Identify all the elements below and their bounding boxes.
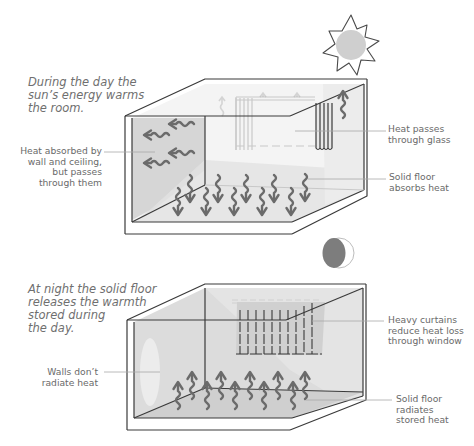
- label-line: radiate heat: [8, 378, 98, 389]
- label-wall-absorb: Heat absorbed by wall and ceiling, but p…: [2, 146, 102, 188]
- caption-line: the day.: [28, 322, 156, 335]
- caption-line: the room.: [28, 102, 144, 115]
- label-floor-absorb: Solid floor absorbs heat: [389, 172, 449, 193]
- label-floor-radiates: Solid floor radiates stored heat: [396, 394, 449, 426]
- label-line: Heat absorbed by: [2, 146, 102, 157]
- label-line: through them: [2, 178, 102, 189]
- label-line: Walls don’t: [8, 367, 98, 378]
- label-line: stored heat: [396, 415, 449, 426]
- label-line: Solid floor: [389, 172, 449, 183]
- label-line: Heat passes: [388, 124, 451, 135]
- night-room: [127, 284, 366, 430]
- moon-icon: [323, 238, 355, 268]
- label-line: through window: [388, 336, 464, 347]
- label-line: absorbs heat: [389, 183, 449, 194]
- label-line: Solid floor: [396, 394, 449, 405]
- label-walls-no-radiate: Walls don’t radiate heat: [8, 367, 98, 388]
- label-curtains: Heavy curtains reduce heat loss through …: [388, 315, 464, 347]
- label-glass: Heat passes through glass: [388, 124, 451, 145]
- sun-icon: [323, 15, 379, 75]
- label-line: through glass: [388, 135, 451, 146]
- day-caption: During the day the sun’s energy warms th…: [28, 76, 144, 115]
- label-line: Heavy curtains: [388, 315, 464, 326]
- night-caption: At night the solid floor releases the wa…: [28, 283, 156, 335]
- day-room: [125, 79, 367, 234]
